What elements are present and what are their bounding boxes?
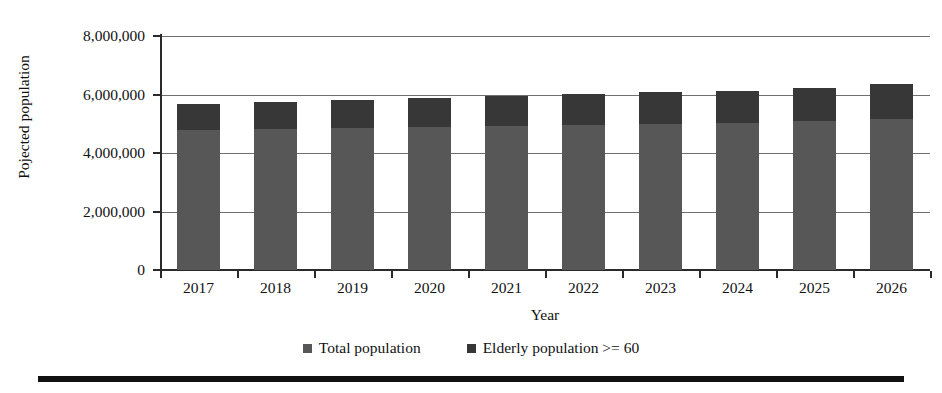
- stacked-bar[interactable]: [254, 102, 297, 270]
- bar-slot: [391, 36, 468, 270]
- x-tick-label: 2023: [622, 279, 699, 297]
- y-tick-label: 6,000,000: [40, 87, 145, 103]
- bar-slot: [699, 36, 776, 270]
- bar-segment-total-population[interactable]: [793, 121, 836, 270]
- x-tick-mark: [314, 271, 316, 278]
- x-tick-mark: [391, 271, 393, 278]
- bar-segment-total-population[interactable]: [331, 128, 374, 270]
- bar-slot: [160, 36, 237, 270]
- bar-segment-total-population[interactable]: [639, 124, 682, 270]
- bar-slot: [468, 36, 545, 270]
- x-tick-mark: [776, 271, 778, 278]
- x-tick-mark: [622, 271, 624, 278]
- x-tick-label: 2021: [468, 279, 545, 297]
- chart-legend: Total populationElderly population >= 60: [0, 340, 942, 356]
- bar-slot: [237, 36, 314, 270]
- bar-segment-total-population[interactable]: [408, 127, 451, 270]
- legend-label: Elderly population >= 60: [483, 340, 640, 356]
- bar-segment-total-population[interactable]: [870, 119, 913, 270]
- x-tick-label: 2020: [391, 279, 468, 297]
- stacked-bar[interactable]: [562, 94, 605, 270]
- x-axis-ticks: [160, 271, 930, 279]
- y-tick-label: 2,000,000: [40, 204, 145, 220]
- x-tick-label: 2022: [545, 279, 622, 297]
- bar-segment-elderly-population[interactable]: [254, 102, 297, 129]
- legend-swatch-icon: [303, 344, 312, 353]
- bar-segment-elderly-population[interactable]: [485, 96, 528, 126]
- x-tick-label: 2019: [314, 279, 391, 297]
- bar-segment-total-population[interactable]: [562, 125, 605, 270]
- legend-label: Total population: [319, 340, 421, 356]
- x-tick-label: 2026: [853, 279, 930, 297]
- legend-swatch-icon: [467, 344, 476, 353]
- legend-item[interactable]: Elderly population >= 60: [467, 340, 640, 356]
- chart-figure: Pojected population 8,000,0006,000,0004,…: [0, 0, 942, 393]
- bar-segment-elderly-population[interactable]: [793, 88, 836, 121]
- y-tick-label: 8,000,000: [40, 28, 145, 44]
- stacked-bar[interactable]: [177, 104, 220, 270]
- bar-slot: [545, 36, 622, 270]
- x-tick-mark: [699, 271, 701, 278]
- bar-segment-total-population[interactable]: [254, 129, 297, 270]
- bar-slot: [314, 36, 391, 270]
- bar-segment-total-population[interactable]: [177, 130, 220, 270]
- x-tick-mark: [237, 271, 239, 278]
- x-tick-label: 2017: [160, 279, 237, 297]
- bottom-divider-rule: [38, 376, 904, 382]
- bar-segment-elderly-population[interactable]: [562, 94, 605, 125]
- y-axis-title: Pojected population: [15, 0, 33, 237]
- bar-slot: [853, 36, 930, 270]
- bar-segment-total-population[interactable]: [485, 126, 528, 270]
- bar-segment-total-population[interactable]: [716, 123, 759, 270]
- stacked-bar[interactable]: [639, 92, 682, 270]
- x-tick-label: 2025: [776, 279, 853, 297]
- x-axis-labels: 2017201820192020202120222023202420252026: [160, 279, 930, 297]
- bar-slot: [776, 36, 853, 270]
- bar-segment-elderly-population[interactable]: [870, 84, 913, 119]
- stacked-bar[interactable]: [331, 100, 374, 270]
- stacked-bar[interactable]: [485, 96, 528, 270]
- x-tick-mark: [468, 271, 470, 278]
- x-tick-mark: [853, 271, 855, 278]
- x-tick-mark: [545, 271, 547, 278]
- stacked-bar[interactable]: [408, 98, 451, 270]
- stacked-bar[interactable]: [716, 91, 759, 270]
- x-axis-title: Year: [160, 306, 930, 324]
- bar-segment-elderly-population[interactable]: [177, 104, 220, 130]
- legend-item[interactable]: Total population: [303, 340, 421, 356]
- bar-group: [160, 36, 930, 270]
- bar-segment-elderly-population[interactable]: [716, 91, 759, 123]
- x-tick-mark: [160, 271, 162, 278]
- stacked-bar[interactable]: [870, 84, 913, 270]
- x-tick-label: 2018: [237, 279, 314, 297]
- stacked-bar[interactable]: [793, 88, 836, 270]
- bar-slot: [622, 36, 699, 270]
- y-tick-label: 0: [40, 262, 145, 278]
- x-tick-mark: [930, 271, 932, 278]
- bar-segment-elderly-population[interactable]: [639, 92, 682, 123]
- y-tick-label: 4,000,000: [40, 145, 145, 161]
- x-tick-label: 2024: [699, 279, 776, 297]
- bar-segment-elderly-population[interactable]: [408, 98, 451, 127]
- bar-segment-elderly-population[interactable]: [331, 100, 374, 128]
